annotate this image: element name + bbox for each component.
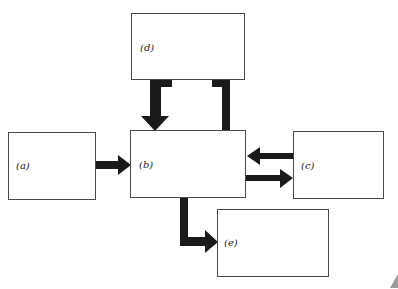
node-c: (c) [293,131,384,199]
node-b-label: (b) [139,159,153,170]
node-d: (d) [131,13,245,80]
flow-diagram: (d) (a) (b) (c) (e) [0,0,398,289]
node-a: (a) [8,132,96,200]
arrow-b-to-e [180,198,218,253]
arrow-b-to-c [246,169,293,188]
node-b: (b) [130,130,246,198]
node-e: (e) [217,209,329,277]
arrow-c-to-b [247,147,293,165]
arrow-a-to-b [96,155,131,175]
arrow-d-to-b [141,80,172,131]
node-d-label: (d) [140,42,154,53]
arrow-b-to-d [212,80,230,130]
node-a-label: (a) [16,160,30,171]
page-corner-mark [390,274,398,288]
node-c-label: (c) [301,160,314,171]
node-e-label: (e) [224,237,238,248]
